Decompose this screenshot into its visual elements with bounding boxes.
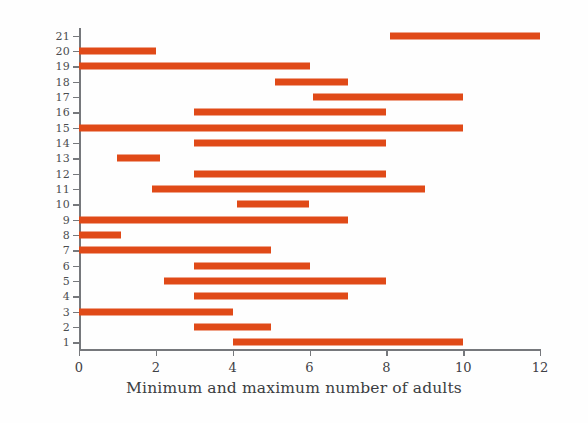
bar-group-5 <box>164 278 387 285</box>
x-tick-label-10: 10 <box>455 360 472 375</box>
bar-group-10 <box>237 201 310 208</box>
bar-group-8 <box>79 232 121 239</box>
y-tick-label-6: 6 <box>63 259 70 272</box>
y-tick-label-10: 10 <box>56 198 70 211</box>
y-tick-label-21: 21 <box>56 29 70 42</box>
x-axis-title: Minimum and maximum number of adults <box>0 379 588 397</box>
y-tick-label-14: 14 <box>56 137 70 150</box>
bar-group-16 <box>194 109 386 116</box>
y-tick-label-2: 2 <box>63 321 70 334</box>
x-tick-2 <box>156 350 157 356</box>
bar-group-1 <box>233 339 464 346</box>
bar-group-6 <box>194 262 309 269</box>
y-tick-label-19: 19 <box>56 60 70 73</box>
y-tick-18 <box>73 82 79 83</box>
bar-group-15 <box>79 124 463 131</box>
x-tick-0 <box>79 350 80 356</box>
y-tick-12 <box>73 174 79 175</box>
x-tick-6 <box>310 350 311 356</box>
y-tick-17 <box>73 97 79 98</box>
x-tick-label-6: 6 <box>305 360 313 375</box>
y-tick-5 <box>73 281 79 282</box>
bar-group-11 <box>152 186 425 193</box>
bar-group-3 <box>79 308 233 315</box>
bar-group-7 <box>79 247 271 254</box>
bar-group-20 <box>79 48 156 55</box>
y-tick-11 <box>73 189 79 190</box>
y-tick-10 <box>73 204 79 205</box>
y-tick-label-12: 12 <box>56 167 70 180</box>
y-tick-label-20: 20 <box>56 45 70 58</box>
y-tick-label-3: 3 <box>63 305 70 318</box>
y-tick-2 <box>73 327 79 328</box>
bar-group-9 <box>79 216 348 223</box>
y-tick-13 <box>73 158 79 159</box>
y-tick-16 <box>73 112 79 113</box>
y-tick-label-11: 11 <box>56 183 70 196</box>
y-tick-label-15: 15 <box>56 121 70 134</box>
y-tick-label-7: 7 <box>63 244 70 257</box>
bar-group-19 <box>79 63 310 70</box>
x-tick-4 <box>233 350 234 356</box>
x-tick-8 <box>386 350 387 356</box>
bar-group-4 <box>194 293 348 300</box>
y-tick-6 <box>73 266 79 267</box>
x-tick-label-12: 12 <box>532 360 549 375</box>
bar-group-2 <box>194 324 271 331</box>
bar-group-18 <box>275 78 348 85</box>
bar-group-13 <box>117 155 159 162</box>
y-tick-label-5: 5 <box>63 275 70 288</box>
bar-group-14 <box>194 140 386 147</box>
x-tick-12 <box>540 350 541 356</box>
x-tick-label-4: 4 <box>229 360 237 375</box>
y-tick-4 <box>73 296 79 297</box>
y-tick-label-9: 9 <box>63 213 70 226</box>
bar-group-17 <box>313 94 463 101</box>
y-tick-label-16: 16 <box>56 106 70 119</box>
y-tick-label-8: 8 <box>63 229 70 242</box>
bar-group-12 <box>194 170 386 177</box>
plot-area: 123456789101112131415161718192021 024681… <box>79 28 540 350</box>
y-tick-label-13: 13 <box>56 152 70 165</box>
y-tick-label-4: 4 <box>63 290 70 303</box>
y-tick-1 <box>73 342 79 343</box>
y-tick-21 <box>73 36 79 37</box>
y-tick-14 <box>73 143 79 144</box>
y-tick-label-1: 1 <box>63 336 70 349</box>
x-tick-10 <box>463 350 464 356</box>
x-tick-label-2: 2 <box>152 360 160 375</box>
y-tick-label-18: 18 <box>56 75 70 88</box>
y-tick-label-17: 17 <box>56 91 70 104</box>
x-tick-label-0: 0 <box>75 360 83 375</box>
x-tick-label-8: 8 <box>382 360 390 375</box>
range-chart: 123456789101112131415161718192021 024681… <box>0 0 588 423</box>
bar-group-21 <box>390 32 540 39</box>
